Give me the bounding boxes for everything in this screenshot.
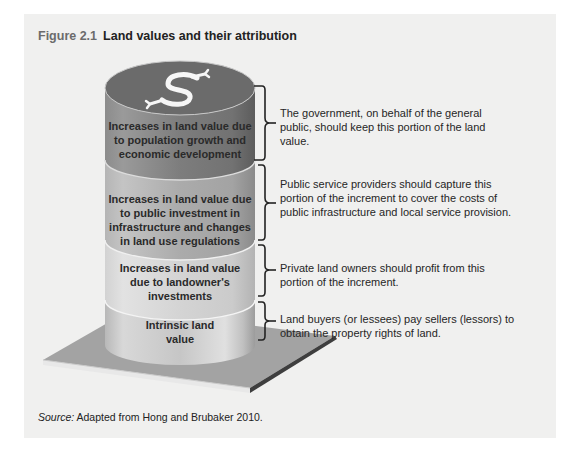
band-label-intrinsic: Intrinsic land value [140, 318, 220, 346]
attribution-public-service-providers: Public service providers should capture … [280, 177, 515, 219]
attribution-braces [254, 86, 276, 340]
band-label-landowner: Increases in land value due to landowner… [113, 261, 247, 303]
band-label-public-investment: Increases in land value due to public in… [105, 192, 255, 248]
cylinder-diagram [0, 0, 580, 453]
brace-1 [254, 86, 270, 160]
source-note: Source: Adapted from Hong and Brubaker 2… [38, 411, 263, 423]
source-prefix: Source: [38, 411, 74, 423]
source-text: Adapted from Hong and Brubaker 2010. [74, 411, 263, 423]
brace-3 [258, 245, 270, 296]
attribution-private-land-owners: Private land owners should profit from t… [280, 261, 515, 289]
brace-2 [258, 165, 270, 240]
attribution-land-buyers: Land buyers (or lessees) pay sellers (le… [280, 312, 530, 340]
band-label-population-growth: Increases in land value due to populatio… [105, 119, 255, 161]
attribution-government: The government, on behalf of the general… [280, 106, 515, 148]
